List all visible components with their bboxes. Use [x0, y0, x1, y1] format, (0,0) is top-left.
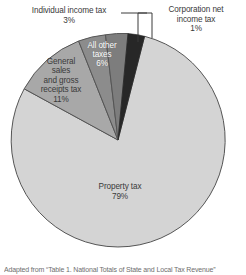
pie-chart-graphic: [0, 0, 246, 275]
slice-label-general-sales-tax: General sales and gross receipts tax 11%: [32, 57, 90, 104]
slice-label-property-tax: Property tax 79%: [85, 182, 155, 201]
slice-label-corporation-net-income-tax: Corporation net income tax 1%: [150, 5, 242, 34]
slice-label-general-sales-tax-value: 11%: [32, 95, 90, 104]
slice-label-corporation-net-income-tax-line1: Corporation net: [169, 5, 224, 14]
slice-label-individual-income-tax: Individual income tax 3%: [17, 6, 121, 25]
slice-label-individual-income-tax-name: Individual income tax: [32, 6, 106, 15]
figure-caption: Adapted from “Table 1. National Totals o…: [4, 266, 244, 274]
pie-chart-figure: Individual income tax 3% Corporation net…: [0, 0, 246, 275]
slice-label-corporation-net-income-tax-value: 1%: [150, 24, 242, 34]
slice-label-general-sales-tax-line1: General: [47, 57, 75, 66]
slice-label-general-sales-tax-line2: sales: [32, 66, 90, 75]
slice-label-property-tax-value: 79%: [85, 192, 155, 202]
slice-label-all-other-taxes-line1: All other: [87, 41, 116, 50]
slice-label-general-sales-tax-line4: receipts tax: [32, 85, 90, 94]
slice-label-individual-income-tax-value: 3%: [17, 16, 121, 26]
slice-label-general-sales-tax-line3: and gross: [32, 76, 90, 85]
slice-label-corporation-net-income-tax-line2: income tax: [150, 15, 242, 25]
slice-label-property-tax-name: Property tax: [99, 182, 142, 191]
